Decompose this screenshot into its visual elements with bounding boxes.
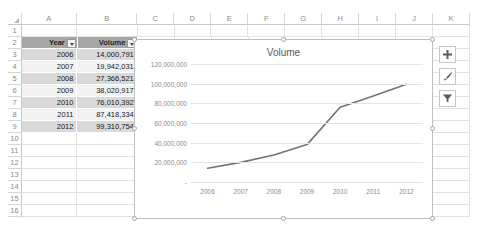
gridline <box>191 84 423 85</box>
cell-year[interactable]: 2008 <box>22 73 77 85</box>
chart-elements-button[interactable] <box>439 46 456 63</box>
cell-a15[interactable] <box>22 193 77 205</box>
gridline <box>191 64 423 65</box>
resize-handle-bottom-right[interactable] <box>430 216 435 221</box>
column-header-j[interactable]: J <box>396 13 433 25</box>
filter-dropdown-icon[interactable] <box>67 39 76 48</box>
column-header-g[interactable]: G <box>285 13 322 25</box>
resize-handle-top-center[interactable] <box>281 37 286 42</box>
chart-object[interactable]: Volume -20,000,00040,000,00060,000,00080… <box>134 39 433 219</box>
resize-handle-top-right[interactable] <box>430 37 435 42</box>
column-header-b[interactable]: B <box>77 13 137 25</box>
cell-k12[interactable] <box>433 157 470 169</box>
cell-f1[interactable] <box>248 25 285 37</box>
resize-handle-middle-right[interactable] <box>430 126 435 131</box>
cell-k13[interactable] <box>433 169 470 181</box>
cell-k10[interactable] <box>433 133 470 145</box>
column-header-e[interactable]: E <box>211 13 248 25</box>
row-header-8[interactable]: 8 <box>8 109 22 121</box>
row-header-2[interactable]: 2 <box>8 37 22 49</box>
row-header-10[interactable]: 10 <box>8 133 22 145</box>
cell-year[interactable]: 2007 <box>22 61 77 73</box>
cell-a11[interactable] <box>22 145 77 157</box>
cell-k11[interactable] <box>433 145 470 157</box>
y-axis-tick-label: 120,000,000 <box>151 61 187 68</box>
select-all-button[interactable] <box>8 13 22 25</box>
cell-b10[interactable] <box>77 133 137 145</box>
cell-a13[interactable] <box>22 169 77 181</box>
column-header-i[interactable]: I <box>359 13 396 25</box>
row-header-7[interactable]: 7 <box>8 97 22 109</box>
gridline <box>191 143 423 144</box>
y-axis-tick-label: 100,000,000 <box>151 80 187 87</box>
cell-b12[interactable] <box>77 157 137 169</box>
row-header-11[interactable]: 11 <box>8 145 22 157</box>
column-header-c[interactable]: C <box>137 13 174 25</box>
row-header-16[interactable]: 16 <box>8 205 22 217</box>
cell-g1[interactable] <box>285 25 322 37</box>
resize-handle-top-left[interactable] <box>132 37 137 42</box>
cell-j1[interactable] <box>396 25 433 37</box>
cell-k9[interactable] <box>433 121 470 133</box>
table-header-year[interactable]: Year <box>22 37 78 49</box>
row-header-15[interactable]: 15 <box>8 193 22 205</box>
cell-volume[interactable]: 38,020,917 <box>77 85 137 97</box>
cell-k16[interactable] <box>433 205 470 217</box>
cell-b13[interactable] <box>77 169 137 181</box>
resize-handle-bottom-left[interactable] <box>132 216 137 221</box>
cell-volume[interactable]: 99,310,754 <box>77 121 137 133</box>
row-header-9[interactable]: 9 <box>8 121 22 133</box>
cell-h1[interactable] <box>322 25 359 37</box>
cell-k14[interactable] <box>433 181 470 193</box>
resize-handle-bottom-center[interactable] <box>281 216 286 221</box>
cell-b1[interactable] <box>77 25 137 37</box>
row-header-13[interactable]: 13 <box>8 169 22 181</box>
cell-year[interactable]: 2009 <box>22 85 77 97</box>
cell-a14[interactable] <box>22 181 77 193</box>
cell-volume[interactable]: 19,942,031 <box>77 61 137 73</box>
cell-volume[interactable]: 14,000,791 <box>77 49 137 61</box>
cell-volume[interactable]: 87,418,334 <box>77 109 137 121</box>
table-header-volume[interactable]: Volume <box>78 37 139 49</box>
row-header-3[interactable]: 3 <box>8 49 22 61</box>
cell-year[interactable]: 2010 <box>22 97 77 109</box>
cell-b16[interactable] <box>77 205 137 217</box>
cell-k15[interactable] <box>433 193 470 205</box>
x-axis-tick-label: 2006 <box>200 188 214 195</box>
chart-filters-button[interactable] <box>439 90 456 107</box>
resize-handle-middle-left[interactable] <box>132 126 137 131</box>
cell-volume[interactable]: 76,010,392 <box>77 97 137 109</box>
x-axis-tick-label: 2010 <box>333 188 347 195</box>
chart-side-buttons[interactable] <box>439 46 456 112</box>
cell-b14[interactable] <box>77 181 137 193</box>
column-header-f[interactable]: F <box>248 13 285 25</box>
column-header-h[interactable]: H <box>322 13 359 25</box>
column-header-k[interactable]: K <box>433 13 470 25</box>
row-header-4[interactable]: 4 <box>8 61 22 73</box>
cell-d1[interactable] <box>175 25 212 37</box>
row-header-1[interactable]: 1 <box>8 25 22 37</box>
x-axis-tick-label: 2012 <box>399 188 413 195</box>
row-header-14[interactable]: 14 <box>8 181 22 193</box>
column-header-d[interactable]: D <box>174 13 211 25</box>
row-header-5[interactable]: 5 <box>8 73 22 85</box>
cell-a16[interactable] <box>22 205 77 217</box>
cell-b15[interactable] <box>77 193 137 205</box>
row-header-6[interactable]: 6 <box>8 85 22 97</box>
cell-b11[interactable] <box>77 145 137 157</box>
chart-styles-button[interactable] <box>439 68 456 85</box>
cell-c1[interactable] <box>138 25 175 37</box>
cell-volume[interactable]: 27,366,521 <box>77 73 137 85</box>
spreadsheet-grid[interactable]: ABCDEFGHIJK 12345678910111213141516 Year… <box>8 13 470 219</box>
cell-year[interactable]: 2011 <box>22 109 77 121</box>
cell-k1[interactable] <box>433 25 470 37</box>
cell-i1[interactable] <box>359 25 396 37</box>
cell-e1[interactable] <box>211 25 248 37</box>
cell-a10[interactable] <box>22 133 77 145</box>
cell-a1[interactable] <box>22 25 77 37</box>
cell-year[interactable]: 2012 <box>22 121 77 133</box>
cell-a12[interactable] <box>22 157 77 169</box>
column-header-a[interactable]: A <box>22 13 77 25</box>
row-header-12[interactable]: 12 <box>8 157 22 169</box>
cell-year[interactable]: 2006 <box>22 49 77 61</box>
